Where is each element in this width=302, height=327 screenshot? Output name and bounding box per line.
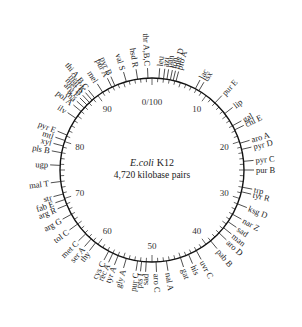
gene-marker: [89, 243, 95, 251]
scale-tick: [233, 142, 240, 144]
gene-label: pyr C: [255, 153, 275, 165]
scale-tick: [233, 196, 240, 198]
gene-marker: [159, 68, 160, 78]
gene-label: hsd R: [128, 47, 141, 68]
gene-marker: [68, 113, 76, 119]
scale-tick: [179, 83, 181, 88]
gene-marker: [54, 194, 64, 197]
gene-marker: [58, 205, 67, 209]
gene-marker: [97, 84, 102, 92]
gene-marker: [199, 82, 204, 91]
strain-name: K12: [157, 157, 174, 168]
scale-tick: [65, 142, 72, 144]
gene-marker: [219, 233, 226, 240]
gene-marker: [52, 151, 62, 153]
gene-marker: [146, 262, 147, 272]
scale-number: 60: [103, 226, 113, 236]
gene-label: tol C: [51, 227, 71, 245]
scale-number: 90: [103, 104, 113, 114]
gene-label: gat: [179, 267, 192, 281]
scale-tick: [78, 116, 82, 119]
scale-tick: [65, 196, 72, 198]
gene-marker: [73, 105, 81, 111]
gene-label: aro C: [152, 274, 163, 293]
gene-marker: [240, 140, 250, 143]
gene-marker: [107, 78, 111, 87]
gene-marker: [233, 214, 242, 219]
gene-marker: [242, 187, 252, 189]
gene-marker: [173, 71, 175, 81]
gene-label: tyr R: [252, 190, 271, 204]
scale-tick: [98, 96, 102, 102]
scale-number: 70: [75, 188, 85, 198]
scale-number: 80: [75, 142, 85, 152]
gene-marker: [235, 125, 244, 129]
ecoli-genetic-map: thr A,B,Cleuazipanlonmet Dpro Alactsxpur…: [0, 0, 302, 327]
gene-marker: [241, 192, 251, 194]
gene-marker: [124, 72, 127, 82]
scale-tick: [222, 116, 226, 119]
gene-marker: [136, 69, 138, 79]
scale-tick: [202, 239, 206, 245]
gene-label: nal A: [163, 272, 176, 292]
gene-label: lip: [231, 97, 244, 110]
gene-marker: [189, 254, 193, 263]
gene-marker: [164, 69, 165, 79]
gene-marker: [55, 137, 64, 140]
gene-marker: [228, 222, 236, 228]
gene-marker: [55, 200, 64, 203]
organism-name: E.coli: [129, 157, 154, 168]
gene-marker: [69, 224, 77, 230]
gene-marker: [180, 257, 183, 267]
gene-marker: [166, 261, 168, 271]
scale-tick: [124, 83, 126, 88]
scale-tick: [179, 253, 181, 258]
scale-number: 50: [148, 241, 158, 251]
gene-marker: [109, 253, 113, 262]
gene-marker: [58, 131, 67, 135]
gene-marker: [85, 239, 92, 247]
gene-marker: [140, 261, 141, 271]
gene-marker: [50, 165, 60, 166]
scale-tick: [124, 253, 126, 258]
gene-marker: [167, 69, 169, 79]
scale-tick: [98, 239, 102, 245]
gene-marker: [136, 261, 138, 271]
gene-marker: [233, 121, 242, 126]
organism-title: E.coliK12: [129, 157, 174, 168]
scale-number: 40: [192, 226, 202, 236]
gene-marker: [244, 160, 254, 161]
gene-marker: [195, 80, 200, 89]
gene-label: thr A,B,C: [141, 33, 152, 67]
gene-label: pur B: [256, 165, 275, 175]
gene-marker: [104, 251, 109, 260]
gene-label: pur E: [220, 77, 240, 97]
gene-label: val S: [113, 52, 127, 72]
scale-tick: [78, 221, 82, 224]
gene-label: ugp: [35, 159, 48, 170]
genome-size: 4,720 kilobase pairs: [114, 170, 191, 180]
scale-number: 10: [192, 104, 202, 114]
gene-marker: [215, 96, 222, 103]
gene-marker: [211, 241, 217, 249]
genetic-map-svg: thr A,B,Cleuazipanlonmet Dpro Alactsxpur…: [0, 0, 302, 327]
gene-marker: [124, 258, 127, 268]
scale-tick: [202, 96, 206, 102]
gene-marker: [63, 214, 72, 219]
gene-marker: [170, 70, 172, 80]
gene-marker: [54, 143, 64, 146]
gene-marker: [224, 228, 232, 234]
gene-marker: [114, 256, 118, 265]
gene-marker: [225, 107, 233, 113]
gene-label: pur C: [128, 272, 141, 293]
gene-marker: [176, 72, 179, 82]
origin-label: 0/100: [142, 97, 163, 107]
gene-marker: [196, 251, 201, 260]
scale-number: 20: [220, 142, 230, 152]
scale-tick: [222, 221, 226, 224]
gene-marker: [242, 147, 252, 149]
scale-number: 30: [220, 188, 230, 198]
gene-marker: [77, 101, 84, 108]
gene-marker: [238, 204, 247, 208]
gene-marker: [111, 77, 115, 86]
